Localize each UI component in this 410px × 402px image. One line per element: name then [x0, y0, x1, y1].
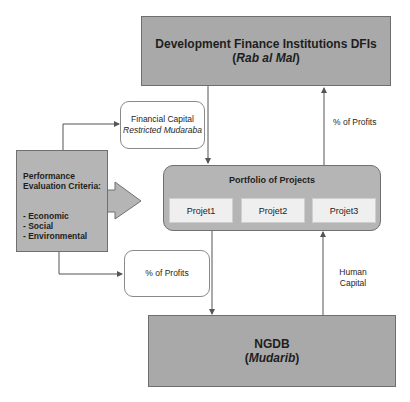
project-cell-1: Projet1 [169, 198, 233, 223]
criteria-arrow-head [107, 182, 141, 219]
arrow-criteria-to-profits [59, 252, 122, 274]
restricted-mudaraba-label: Restricted Mudaraba [123, 125, 202, 136]
ngdb-title: NGDB [254, 337, 289, 351]
human-capital-line1: Human [339, 267, 366, 278]
criteria-item-economic: - Economic [23, 211, 107, 221]
profits-label-upper: % of Profits [333, 117, 403, 128]
profits-box-lower: % of Profits [124, 250, 210, 297]
human-capital-label: Human Capital [332, 267, 374, 289]
ngdb-paren-close: ) [295, 351, 299, 365]
dfi-title: Development Finance Institutions DFIs [155, 37, 376, 51]
dfi-subtitle: (Rab al Mal) [232, 51, 299, 65]
ngdb-mudarib: Mudarib [249, 351, 296, 365]
criteria-box: Performance Evaluation Criteria: - Econo… [16, 150, 108, 252]
project-cell-3: Projet3 [312, 198, 376, 223]
human-capital-line2: Capital [340, 278, 366, 289]
criteria-title-1: Performance [23, 171, 107, 181]
ngdb-box: NGDB (Mudarib) [148, 315, 396, 387]
dfi-paren-close: ) [296, 51, 300, 65]
arrow-criteria-to-financial-capital [63, 124, 119, 150]
criteria-item-environmental: - Environmental [23, 231, 107, 241]
project-cell-2: Projet2 [241, 198, 305, 223]
criteria-item-social: - Social [23, 221, 107, 231]
dfi-box: Development Finance Institutions DFIs (R… [141, 16, 391, 86]
portfolio-title: Portfolio of Projects [164, 175, 380, 185]
dfi-rab-al-mal: Rab al Mal [236, 51, 295, 65]
profits-lower-label: % of Profits [145, 268, 188, 279]
portfolio-box: Portfolio of Projects Projet1 Projet2 Pr… [163, 165, 381, 231]
financial-capital-box: Financial Capital Restricted Mudaraba [120, 101, 205, 149]
financial-capital-label: Financial Capital [131, 114, 194, 125]
criteria-title-2: Evaluation Criteria: [23, 181, 107, 191]
ngdb-subtitle: (Mudarib) [245, 351, 300, 365]
